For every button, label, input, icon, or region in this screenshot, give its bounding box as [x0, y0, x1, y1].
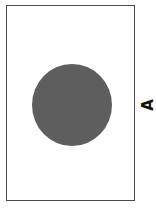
- filled-circle: [32, 64, 112, 146]
- side-label: A: [139, 97, 156, 113]
